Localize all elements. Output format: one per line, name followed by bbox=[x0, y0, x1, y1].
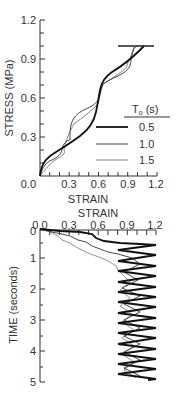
x-tick-label: 0.9 bbox=[119, 219, 134, 231]
y-ticks bbox=[40, 243, 45, 367]
y-tick-label: 1 bbox=[30, 252, 36, 264]
x-tick-label: 0.9 bbox=[120, 178, 135, 190]
legend-title: To (s) bbox=[132, 103, 159, 116]
time-strain-chart: STRAIN 0.0 0.3 0.6 0.9 1.2 bbox=[7, 207, 163, 388]
y-axis-label: TIME (seconds) bbox=[7, 266, 19, 344]
y-axis-label: STRESS (MPa) bbox=[3, 59, 15, 136]
x-ticks bbox=[50, 172, 157, 176]
series-0.5-trace bbox=[40, 229, 156, 380]
y-ticks bbox=[40, 20, 45, 163]
x-axis-label: STRAIN bbox=[78, 207, 118, 219]
stress-strain-chart: 1.2 0.9 0.6 0.3 0.0 0.3 0.6 0.9 1.2 STRA… bbox=[3, 14, 170, 205]
x-tick-label: 1.2 bbox=[147, 219, 162, 231]
legend-label: 1.0 bbox=[139, 138, 154, 150]
figure: 1.2 0.9 0.6 0.3 0.0 0.3 0.6 0.9 1.2 STRA… bbox=[0, 0, 176, 404]
x-tick-label: 0.3 bbox=[61, 219, 76, 231]
x-tick-label: 0.6 bbox=[90, 219, 105, 231]
y-tick-label: 0.3 bbox=[21, 131, 36, 143]
y-tick-label: 0.6 bbox=[21, 92, 36, 104]
series-0.5-curve bbox=[40, 46, 144, 176]
y-tick-label: 4 bbox=[30, 345, 36, 357]
x-tick-label: 0.6 bbox=[91, 178, 106, 190]
x-tick-label: 1.2 bbox=[148, 178, 163, 190]
y-tick-label: 0.9 bbox=[21, 53, 36, 65]
y-tick-label: 1.2 bbox=[21, 14, 36, 26]
y-tick-label: 3 bbox=[30, 314, 36, 326]
y-tick-label: 0.0 bbox=[21, 178, 36, 190]
y-tick-label: 0 bbox=[30, 225, 36, 237]
y-tick-label: 2 bbox=[30, 283, 36, 295]
legend-label: 1.5 bbox=[139, 154, 154, 166]
legend-label: 0.5 bbox=[139, 121, 154, 133]
x-tick-label: 0.3 bbox=[61, 178, 76, 190]
x-axis-label: STRAIN bbox=[68, 193, 108, 205]
legend: To (s) 0.5 1.0 1.5 bbox=[96, 103, 170, 166]
y-tick-label: 5 bbox=[30, 376, 36, 388]
